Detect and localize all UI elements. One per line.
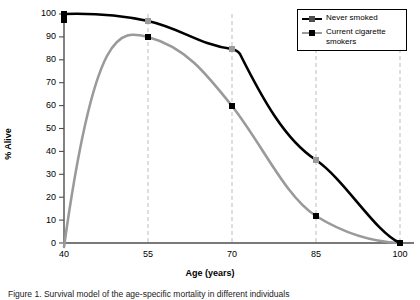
- point-never-55: [145, 18, 151, 24]
- legend-label-never-smoked: Never smoked: [326, 13, 378, 23]
- point-smoker-100: [397, 240, 403, 246]
- y-tick-label-60: 60: [28, 100, 56, 110]
- y-tick-label-50: 50: [28, 123, 56, 133]
- figure-caption: Figure 1. Survival model of the age-spec…: [8, 289, 412, 300]
- x-tick-label-40: 40: [47, 249, 81, 259]
- y-tick-label-20: 20: [28, 192, 56, 202]
- y-tick-label-100: 100: [28, 8, 56, 18]
- legend-item-current-smokers: Current cigarette smokers: [302, 27, 402, 46]
- y-tick-label-0: 0: [28, 238, 56, 248]
- x-axis-title: Age (years): [0, 268, 420, 278]
- y-tick-label-90: 90: [28, 31, 56, 41]
- y-axis: [59, 14, 64, 243]
- x-tick-label-55: 55: [131, 249, 165, 259]
- y-tick-label-30: 30: [28, 169, 56, 179]
- survival-curve-figure: 100 90 80 70 60 50 40 30 20 10 0 40 55 7…: [0, 0, 420, 300]
- point-smoker-70: [229, 103, 235, 109]
- point-never-70: [229, 46, 235, 52]
- y-tick-label-10: 10: [28, 215, 56, 225]
- point-never-85: [313, 157, 319, 163]
- legend-label-current-smokers: Current cigarette smokers: [326, 27, 402, 46]
- x-tick-label-85: 85: [299, 249, 333, 259]
- legend-item-never-smoked: Never smoked: [302, 13, 402, 24]
- y-tick-label-70: 70: [28, 77, 56, 87]
- point-smoker-85: [313, 213, 319, 219]
- point-smoker-55: [145, 34, 151, 40]
- y-tick-label-80: 80: [28, 54, 56, 64]
- legend-key-never-smoked-icon: [302, 14, 322, 24]
- x-tick-label-100: 100: [383, 249, 417, 259]
- chart-legend: Never smoked Current cigarette smokers: [297, 9, 407, 51]
- y-tick-label-40: 40: [28, 146, 56, 156]
- legend-key-current-smokers-icon: [302, 28, 322, 38]
- x-tick-label-70: 70: [215, 249, 249, 259]
- y-axis-title: % Alive: [3, 114, 13, 174]
- point-smoker-40: [61, 17, 67, 23]
- point-never-40: [61, 11, 67, 17]
